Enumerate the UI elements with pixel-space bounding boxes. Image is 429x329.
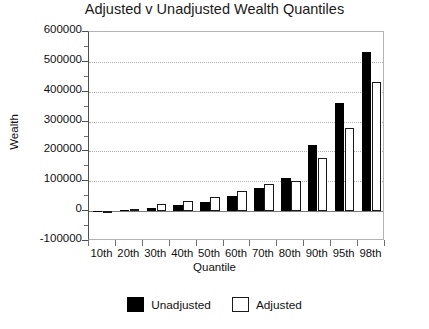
- bar-adjusted-10th: [103, 211, 113, 213]
- gridline: [89, 92, 383, 93]
- x-axis-tick: [384, 240, 385, 246]
- x-axis-tick: [249, 240, 250, 246]
- y-axis-tick-label: 300000: [6, 113, 82, 125]
- x-axis-tick: [88, 240, 89, 246]
- y-axis-tick-label: -100000: [6, 232, 82, 244]
- x-axis-tick-label-80th: 80th: [275, 247, 305, 259]
- x-axis-tick-label-95th: 95th: [329, 247, 359, 259]
- chart-legend: Unadjusted Adjusted: [0, 297, 429, 312]
- x-axis-tick-label-70th: 70th: [248, 247, 278, 259]
- bar-unadjusted-95th: [335, 103, 345, 211]
- bar-unadjusted-90th: [308, 145, 318, 211]
- legend-entry-adjusted: Adjusted: [232, 297, 302, 312]
- x-axis-tick: [223, 240, 224, 246]
- bar-unadjusted-30th: [147, 208, 157, 211]
- bar-adjusted-40th: [183, 201, 193, 211]
- gridline: [89, 62, 383, 63]
- legend-label-adjusted: Adjusted: [256, 298, 302, 312]
- bar-unadjusted-70th: [254, 188, 264, 211]
- zero-baseline: [89, 211, 383, 212]
- x-axis-tick-label-40th: 40th: [167, 247, 197, 259]
- bar-unadjusted-98th: [362, 52, 372, 211]
- legend-entry-unadjusted: Unadjusted: [127, 297, 211, 312]
- x-axis-tick: [357, 240, 358, 246]
- x-axis-tick-label-90th: 90th: [302, 247, 332, 259]
- y-axis-tick-label: 400000: [6, 83, 82, 95]
- x-axis-tick-label-10th: 10th: [86, 247, 116, 259]
- legend-label-unadjusted: Unadjusted: [151, 298, 211, 312]
- y-axis-tick-label: 0: [6, 202, 82, 214]
- x-axis-tick: [169, 240, 170, 246]
- x-axis-tick: [142, 240, 143, 246]
- bar-adjusted-98th: [372, 82, 382, 212]
- x-axis-title: Quantile: [0, 261, 429, 273]
- bar-unadjusted-10th: [93, 211, 103, 212]
- bar-unadjusted-40th: [173, 205, 183, 211]
- bar-unadjusted-50th: [200, 202, 210, 212]
- bar-unadjusted-20th: [120, 210, 130, 211]
- legend-swatch-unadjusted-icon: [127, 297, 144, 312]
- y-axis-tick-label: 100000: [6, 172, 82, 184]
- bar-adjusted-50th: [210, 197, 220, 212]
- legend-swatch-adjusted-icon: [232, 297, 249, 312]
- y-axis-tick-label: 500000: [6, 53, 82, 65]
- bar-unadjusted-60th: [227, 196, 237, 212]
- x-axis-tick-label-60th: 60th: [221, 247, 251, 259]
- x-axis-tick: [276, 240, 277, 246]
- bar-unadjusted-80th: [281, 178, 291, 211]
- y-axis-tick-label: 200000: [6, 142, 82, 154]
- bar-adjusted-95th: [345, 128, 355, 212]
- x-axis-tick: [330, 240, 331, 246]
- x-axis-tick-label-20th: 20th: [113, 247, 143, 259]
- bar-adjusted-70th: [264, 184, 274, 211]
- chart-container: Adjusted v Unadjusted Wealth Quantiles W…: [0, 0, 429, 329]
- bar-adjusted-60th: [237, 191, 247, 211]
- y-axis-title: Wealth: [8, 95, 20, 169]
- bar-adjusted-20th: [130, 209, 140, 211]
- x-axis-tick-label-98th: 98th: [356, 247, 386, 259]
- x-axis-tick-label-50th: 50th: [194, 247, 224, 259]
- x-axis-tick: [303, 240, 304, 246]
- chart-title: Adjusted v Unadjusted Wealth Quantiles: [0, 1, 429, 17]
- x-axis-tick: [115, 240, 116, 246]
- x-axis-tick: [196, 240, 197, 246]
- x-axis-tick-label-30th: 30th: [140, 247, 170, 259]
- bar-adjusted-80th: [291, 181, 301, 211]
- plot-area: [88, 31, 384, 240]
- y-axis-tick-label: 600000: [6, 23, 82, 35]
- bar-adjusted-90th: [318, 158, 328, 211]
- bar-adjusted-30th: [157, 204, 167, 211]
